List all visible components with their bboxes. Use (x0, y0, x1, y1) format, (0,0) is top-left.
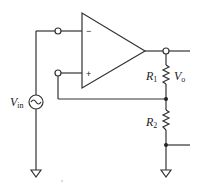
vo-label: Vo (174, 69, 185, 84)
opamp-triangle (82, 13, 145, 88)
terminal-noninverting (55, 70, 61, 76)
plus-sign: + (86, 69, 91, 79)
sine-glyph-icon (31, 100, 41, 104)
ground-icon-left (31, 170, 41, 177)
vin-label: Vin (10, 95, 24, 110)
junction-dot-upper (164, 97, 168, 101)
terminal-inverting (55, 28, 61, 34)
minus-sign: − (86, 26, 91, 36)
terminal-output (163, 48, 169, 54)
circuit-diagram: − + Vin R1 Vo R2 (0, 0, 201, 191)
r1-label: R1 (145, 69, 157, 84)
resistor-r2-icon (163, 110, 169, 130)
resistor-r1-icon (163, 65, 169, 84)
artifact-dot (61, 180, 63, 182)
ground-icon-right (161, 170, 171, 177)
r2-label: R2 (145, 115, 157, 130)
